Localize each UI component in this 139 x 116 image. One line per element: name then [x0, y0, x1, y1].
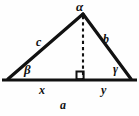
angle-label-alpha: α: [76, 0, 83, 13]
geometry-figure: α β γ c b x y a: [0, 0, 139, 116]
triangle-diagram: [0, 0, 139, 116]
left-leg-side-c: [8, 14, 83, 79]
segment-label-x: x: [39, 84, 45, 96]
angle-label-gamma: γ: [113, 63, 118, 75]
right-leg-side-b: [83, 14, 131, 79]
segment-label-y: y: [101, 84, 106, 96]
angle-label-beta: β: [24, 63, 31, 76]
side-label-c: c: [36, 36, 41, 48]
side-label-a: a: [60, 99, 66, 111]
side-label-b: b: [103, 33, 109, 45]
